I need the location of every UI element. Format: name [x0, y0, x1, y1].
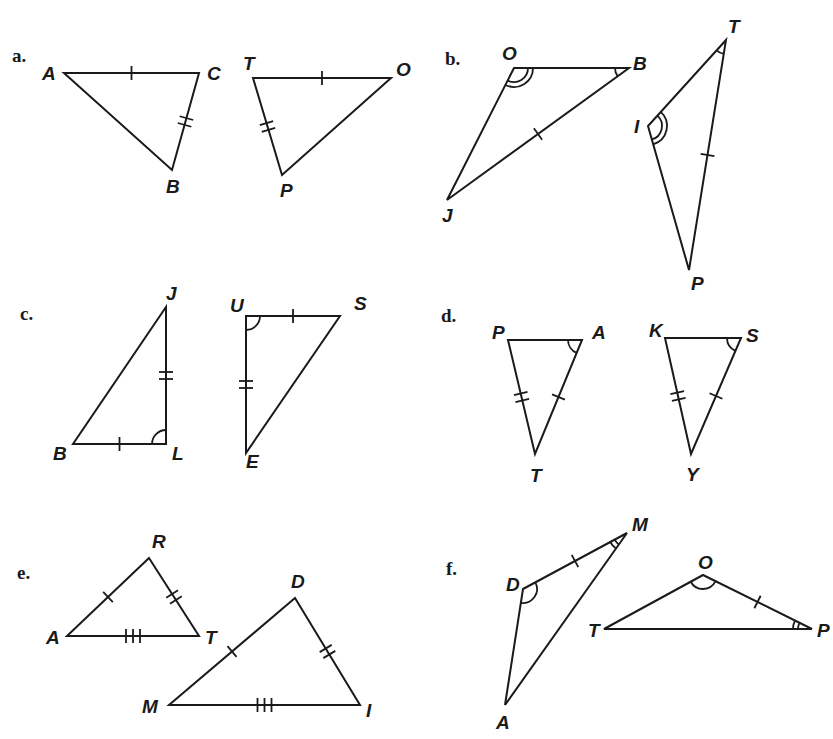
problem-label: b.: [445, 48, 460, 69]
vertex-label-p: P: [691, 273, 704, 294]
triangle-jlb: JLB: [53, 283, 184, 464]
triangle-tip: TIP: [634, 16, 741, 294]
vertex-label-o: O: [698, 552, 713, 573]
problem-b: b.OBJTIP: [442, 16, 741, 294]
angle-arc-mark: [727, 338, 735, 351]
angle-arc-mark: [793, 621, 795, 629]
problem-d: d.PATKSY: [441, 305, 759, 486]
angle-arc-mark: [568, 340, 577, 353]
angle-arc-mark: [615, 68, 618, 76]
triangle-outline: [604, 575, 812, 629]
congruence-tick-mark: [701, 154, 715, 156]
congruence-tick-mark: [534, 128, 542, 139]
triangle-use: USE: [230, 293, 367, 472]
vertex-label-b: B: [166, 176, 180, 197]
angle-arc-mark: [717, 50, 724, 53]
vertex-label-d: D: [291, 571, 305, 592]
vertex-label-r: R: [152, 531, 166, 552]
problem-e: e.RATDMI: [17, 531, 372, 721]
vertex-label-a: A: [591, 322, 606, 343]
vertex-label-m: M: [142, 696, 159, 717]
triangle-abc: ACB: [41, 63, 221, 197]
problem-label: e.: [17, 562, 30, 583]
vertex-label-a: A: [41, 63, 56, 84]
triangle-dmi: DMI: [142, 571, 372, 721]
triangle-outline: [253, 78, 391, 175]
vertex-label-d: D: [506, 574, 520, 595]
triangle-outline: [665, 338, 741, 454]
problem-label: a.: [12, 45, 26, 66]
triangle-mda: MDA: [495, 514, 649, 733]
problem-a: a.ACBTOP: [12, 45, 411, 201]
triangle-top: TOP: [243, 53, 411, 201]
triangle-outline: [505, 533, 627, 705]
vertex-label-m: M: [632, 514, 649, 535]
vertex-label-o: O: [396, 59, 411, 80]
triangle-outline: [64, 73, 199, 170]
vertex-label-a: A: [45, 627, 60, 648]
problem-f: f.MDAOTP: [446, 514, 830, 733]
angle-arc-mark: [615, 540, 619, 545]
vertex-label-l: L: [172, 443, 184, 464]
vertex-label-p: P: [492, 322, 505, 343]
vertex-label-i: I: [366, 700, 372, 721]
triangle-outline: [73, 307, 166, 444]
angle-arc-mark: [152, 430, 166, 444]
vertex-label-y: Y: [686, 464, 701, 485]
triangle-outline: [508, 340, 582, 454]
vertex-label-b: B: [53, 443, 67, 464]
vertex-label-e: E: [246, 451, 260, 472]
angle-arc-mark: [246, 316, 260, 330]
vertex-label-b: B: [633, 53, 647, 74]
problem-label: c.: [20, 303, 33, 324]
vertex-label-t: T: [205, 627, 218, 648]
congruence-tick-mark: [170, 596, 182, 604]
vertex-label-o: O: [502, 43, 517, 64]
vertex-label-t: T: [588, 620, 601, 641]
congruent-triangles-diagram: a.ACBTOPb.OBJTIPc.JLBUSEd.PATKSYe.RATDMI…: [0, 0, 833, 739]
triangle-otp: OTP: [588, 552, 830, 641]
vertex-label-p: P: [280, 180, 293, 201]
vertex-label-c: C: [207, 63, 221, 84]
problem-label: d.: [441, 305, 456, 326]
vertex-label-a: A: [495, 712, 510, 733]
vertex-label-j: J: [166, 283, 177, 304]
problem-label: f.: [446, 558, 457, 579]
vertex-label-j: J: [442, 205, 453, 226]
congruence-tick-mark: [572, 555, 579, 567]
vertex-label-k: K: [649, 320, 664, 341]
problem-c: c.JLBUSE: [20, 283, 367, 472]
vertex-label-t: T: [243, 53, 256, 74]
vertex-label-u: U: [230, 295, 245, 316]
triangle-pat: PAT: [492, 322, 606, 486]
vertex-label-i: I: [634, 116, 640, 137]
triangle-outline: [648, 40, 726, 270]
congruence-tick-mark: [323, 651, 335, 658]
congruence-tick-mark: [320, 645, 332, 652]
triangle-outline: [246, 316, 340, 453]
vertex-label-t: T: [530, 465, 543, 486]
triangle-ksy: KSY: [649, 320, 759, 485]
angle-arc-mark: [610, 542, 616, 548]
vertex-label-p: P: [817, 620, 830, 641]
vertex-label-t: T: [728, 16, 741, 37]
triangle-outline: [169, 598, 360, 705]
triangle-obj: OBJ: [442, 43, 647, 226]
congruence-tick-mark: [166, 590, 178, 598]
angle-arc-mark: [691, 581, 716, 589]
triangle-rat: RAT: [45, 531, 218, 648]
vertex-label-s: S: [746, 325, 759, 346]
vertex-label-s: S: [354, 293, 367, 314]
